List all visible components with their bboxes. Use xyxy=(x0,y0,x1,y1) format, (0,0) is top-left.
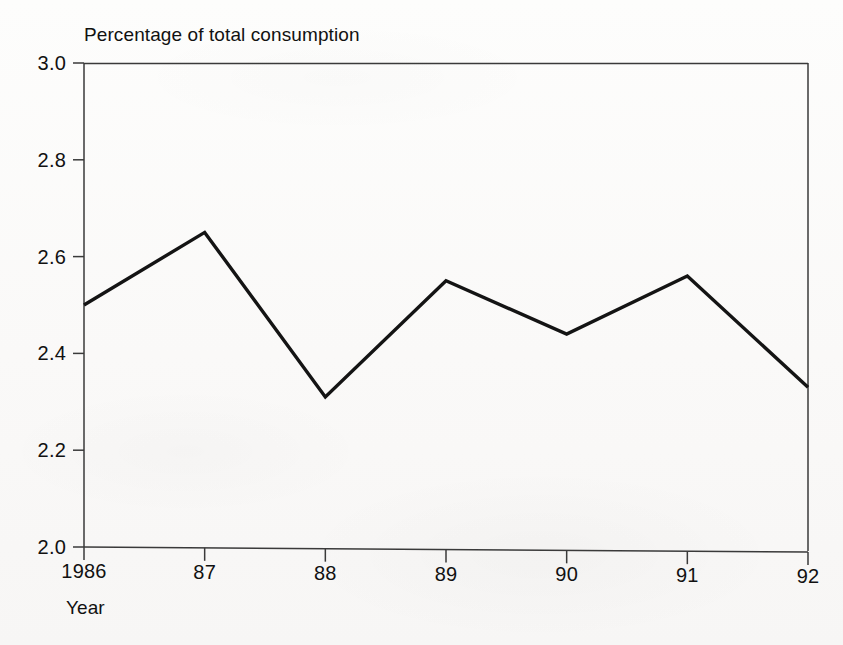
x-axis-title: Year xyxy=(66,597,105,619)
line-chart: Percentage of total consumption 2.02.22.… xyxy=(0,0,843,645)
plot-canvas xyxy=(0,0,843,645)
axis-frame xyxy=(84,63,808,552)
chart-page: Percentage of total consumption 2.02.22.… xyxy=(0,0,843,645)
data-series-line xyxy=(84,232,808,397)
axis-tick-marks xyxy=(73,63,808,565)
